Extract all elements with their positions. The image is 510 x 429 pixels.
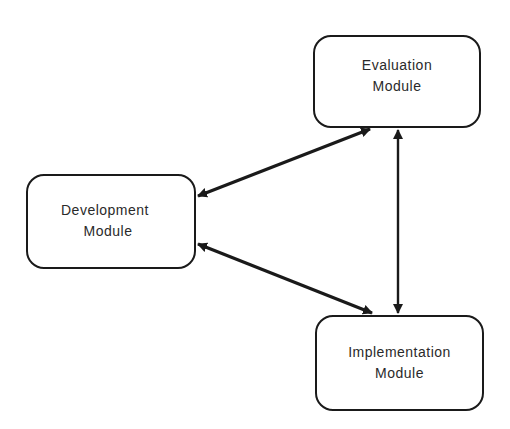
node-label-line1: Implementation — [348, 342, 451, 363]
node-implementation-module: Implementation Module — [315, 315, 484, 411]
edge-development-implementation — [198, 244, 372, 313]
edge-development-evaluation — [198, 129, 370, 196]
node-label-line2: Module — [373, 76, 422, 97]
node-label-line2: Module — [375, 363, 424, 384]
node-label-line2: Module — [84, 221, 133, 242]
node-label-line1: Evaluation — [362, 55, 432, 76]
diagram-canvas: Evaluation Module Development Module Imp… — [0, 0, 510, 429]
node-development-module: Development Module — [26, 174, 196, 269]
node-label-line1: Development — [61, 200, 149, 221]
node-evaluation-module: Evaluation Module — [313, 35, 481, 128]
